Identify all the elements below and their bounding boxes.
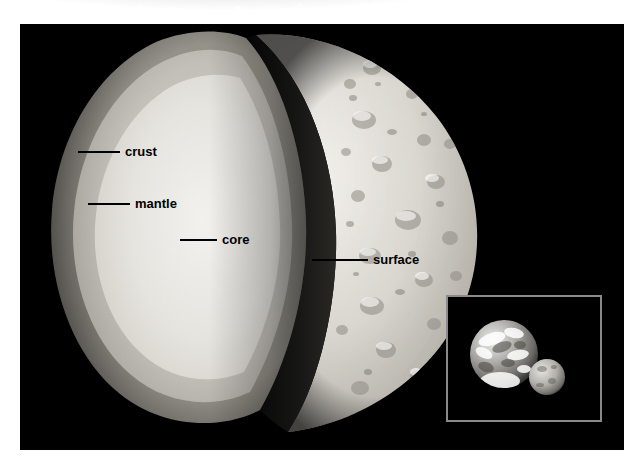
figure-root: crust mantle core surface	[0, 0, 643, 465]
inset-body-planet	[529, 359, 565, 395]
inset-body-earth	[470, 320, 538, 390]
size-comparison-inset	[446, 295, 602, 422]
diagram-panel	[20, 24, 624, 450]
cutaway-shading	[51, 32, 306, 423]
